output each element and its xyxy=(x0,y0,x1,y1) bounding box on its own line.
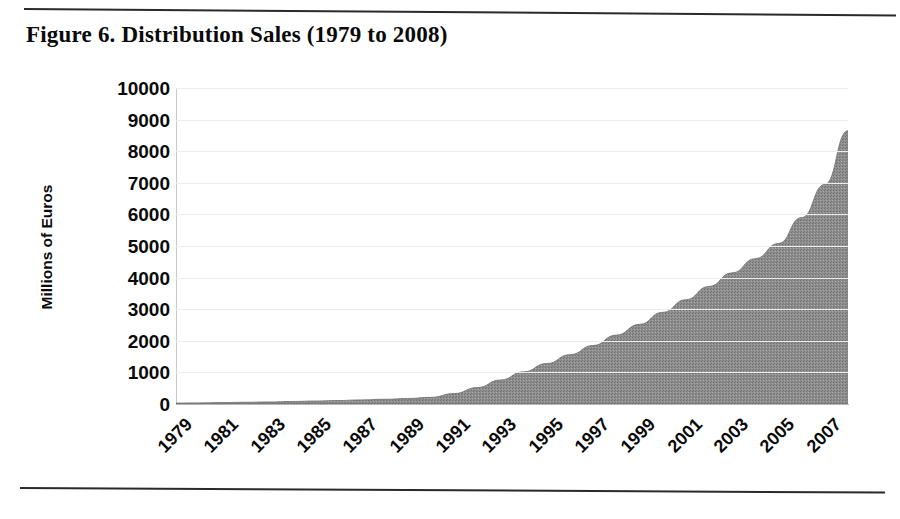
y-axis-tick-label: 4000 xyxy=(60,268,170,287)
gridline xyxy=(176,183,848,184)
y-axis-tick-label: 5000 xyxy=(60,237,170,256)
x-axis-tick-label: 2003 xyxy=(697,414,753,470)
gridline xyxy=(176,372,848,373)
plot-area xyxy=(176,88,848,404)
x-axis-tick-label: 1991 xyxy=(419,414,475,470)
gridline xyxy=(176,246,848,247)
x-axis-tick-label: 2007 xyxy=(790,414,846,470)
y-axis-tick-label: 2000 xyxy=(60,331,170,350)
y-axis-tick-label: 1000 xyxy=(60,363,170,382)
y-axis-tick-label: 9000 xyxy=(60,110,170,129)
y-axis-tick-label: 10000 xyxy=(60,79,170,98)
y-axis-tick-label: 6000 xyxy=(60,205,170,224)
y-axis-tick-label: 3000 xyxy=(60,300,170,319)
x-axis-line xyxy=(176,404,849,405)
x-axis-tick-label: 1995 xyxy=(512,414,568,470)
figure-caption: Figure 6. Distribution Sales (1979 to 20… xyxy=(26,22,448,48)
x-axis-tick-label: 1983 xyxy=(234,414,290,470)
y-axis-tick-label: 0 xyxy=(60,395,170,414)
x-axis-tick-label: 2001 xyxy=(651,414,707,470)
x-axis-tick-label: 1993 xyxy=(465,414,521,470)
y-axis-tick-label: 7000 xyxy=(60,173,170,192)
y-axis-title: Millions of Euros xyxy=(38,167,56,327)
y-axis-tick-label: 8000 xyxy=(60,142,170,161)
x-axis-tick-label: 1999 xyxy=(604,414,660,470)
x-axis-tick-label: 1987 xyxy=(326,414,382,470)
x-axis-tick-label: 1997 xyxy=(558,414,614,470)
x-axis-tick-labels: 1979198119831985198719891991199319951997… xyxy=(176,408,856,488)
x-axis-tick-label: 1985 xyxy=(280,414,336,470)
gridline xyxy=(176,214,848,215)
gridline xyxy=(176,309,848,310)
gridline xyxy=(176,120,848,121)
chart-figure: Millions of Euros 1000090008000700060005… xyxy=(0,68,900,488)
x-axis-tick-label: 1981 xyxy=(187,414,243,470)
page-rule-top xyxy=(24,8,896,16)
y-axis-tick-labels: 1000090008000700060005000400030002000100… xyxy=(60,68,170,488)
gridline xyxy=(176,278,848,279)
gridline xyxy=(176,151,848,152)
x-axis-tick-label: 2005 xyxy=(743,414,799,470)
x-axis-tick-label: 1989 xyxy=(373,414,429,470)
gridline xyxy=(176,341,848,342)
gridline xyxy=(176,88,848,89)
